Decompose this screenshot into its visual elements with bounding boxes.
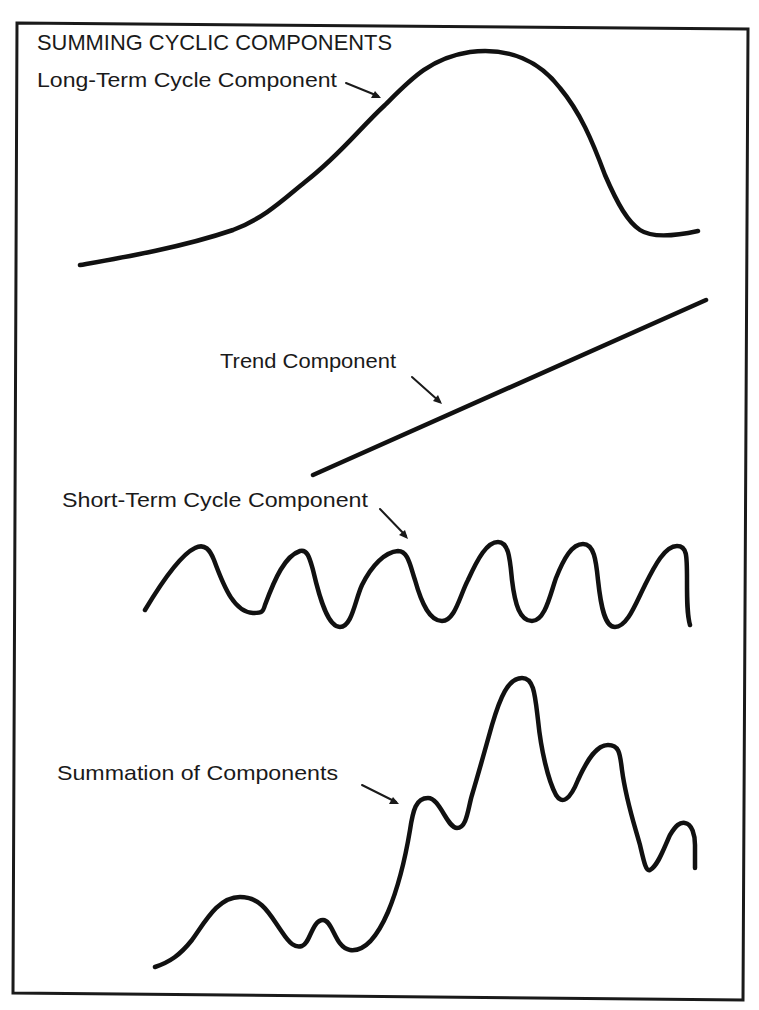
- summation-curve: [155, 678, 695, 967]
- figure-title: SUMMING CYCLIC COMPONENTS: [37, 30, 392, 55]
- summing-cyclic-components-figure: SUMMING CYCLIC COMPONENTS Long-Term Cycl…: [0, 0, 759, 1010]
- short-term-cycle-curve: [145, 542, 690, 627]
- figure-frame: [13, 23, 748, 1000]
- long-term-cycle-label: Long-Term Cycle Component: [37, 68, 337, 91]
- trend-line: [313, 300, 706, 475]
- short-term-cycle-label: Short-Term Cycle Component: [62, 488, 368, 511]
- summation-label: Summation of Components: [57, 761, 338, 784]
- summation-arrow-icon: [362, 785, 399, 804]
- long-term-arrow-icon: [346, 83, 381, 98]
- trend-arrow-icon: [412, 377, 442, 404]
- trend-component-label: Trend Component: [220, 349, 396, 372]
- short-term-arrow-icon: [380, 509, 408, 539]
